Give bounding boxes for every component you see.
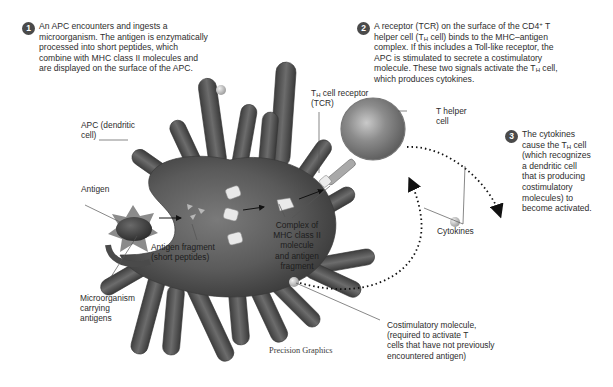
label-antigen: Antigen	[81, 184, 109, 194]
label-costimulatory: Costimulatory molecule, (required to act…	[387, 320, 495, 361]
step-2-badge: 2	[357, 22, 370, 35]
label-cytokines: Cytokines	[437, 226, 474, 236]
credit-text: Precision Graphics	[269, 346, 333, 355]
label-microorganism: Microorganism carrying antigens	[80, 293, 135, 324]
step-3-badge: 3	[505, 130, 518, 143]
label-antigen-fragment: Antigen fragment (short peptides)	[151, 242, 215, 262]
step-1-badge: 1	[22, 22, 35, 35]
label-mhc-complex: Complex of MHC class II molecule and ant…	[262, 220, 332, 271]
label-tcr: TH cell receptor (TCR)	[311, 88, 368, 108]
label-t-helper-cell: T helper cell	[436, 106, 467, 126]
step-2-text: A receptor (TCR) on the surface of the C…	[374, 21, 604, 85]
step-3-text: The cytokines cause the TH cell (which r…	[522, 129, 612, 214]
step-1-text: An APC encounters and ingests a microorg…	[39, 21, 239, 74]
label-apc: APC (dendritic cell)	[81, 120, 135, 140]
